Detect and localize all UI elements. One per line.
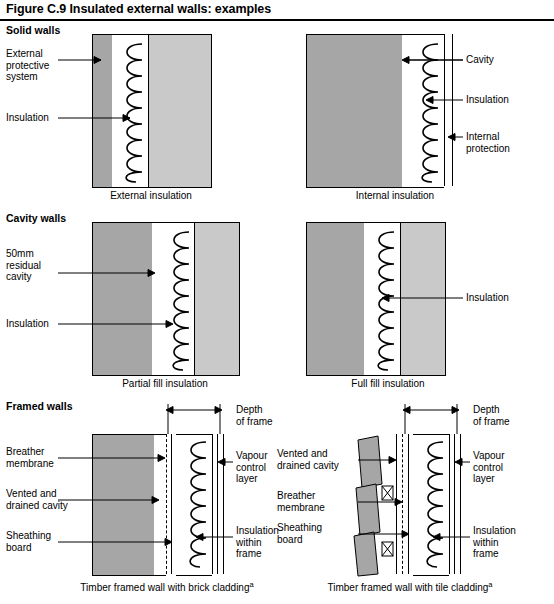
caption-timber-framed-tile: Timber framed wall with tile claddinga [300, 580, 520, 593]
caption-text: Timber framed wall with tile cladding [328, 582, 489, 593]
caption-footnote: a [488, 580, 492, 589]
figure-page: Figure C.9 Insulated external walls: exa… [0, 0, 554, 604]
leader-lines-timber-tile [0, 0, 554, 604]
